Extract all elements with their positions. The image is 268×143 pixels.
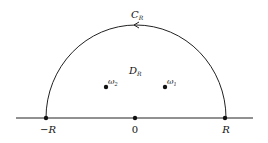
tick-label-r: R	[221, 124, 230, 135]
semicircle-contour-diagram: CR DR ω2 ω1 −R 0 R	[0, 0, 268, 143]
omega-2-label: ω2	[108, 77, 118, 87]
point-r	[223, 116, 227, 120]
tick-label-minus-r: −R	[40, 124, 56, 135]
tick-label-zero: 0	[132, 124, 138, 135]
contour-label: CR	[131, 9, 144, 21]
point-minus-r	[44, 116, 48, 120]
region-label: DR	[128, 65, 142, 77]
omega-1-label: ω1	[167, 77, 177, 87]
point-origin	[133, 116, 137, 120]
